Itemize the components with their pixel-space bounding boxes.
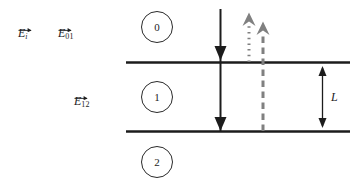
- thickness-dimension-head-bottom: [319, 118, 327, 128]
- field-12-subscript: 12: [81, 100, 89, 109]
- diagram-canvas: [0, 0, 354, 186]
- incident-field-symbol: E: [18, 27, 25, 39]
- reflected-arrow-12-head: [257, 22, 270, 36]
- region-number-2: 2: [142, 157, 172, 168]
- physics-layer-diagram: E i E 01 E 12 0 1 2 L: [0, 0, 354, 186]
- field-01-label: E 01: [58, 27, 74, 41]
- region-marker-0: 0: [141, 11, 173, 43]
- incident-field-label: E i: [18, 27, 28, 41]
- thickness-dimension-head-top: [319, 66, 327, 76]
- field-12-symbol: E: [74, 95, 81, 107]
- incident-arrow-head-lower: [215, 117, 227, 131]
- reflected-arrow-01-head: [243, 13, 256, 27]
- incident-field-subscript: i: [25, 32, 27, 41]
- field-01-subscript: 01: [65, 32, 73, 41]
- thickness-dimension-label: L: [331, 91, 338, 103]
- region-number-1: 1: [142, 92, 172, 103]
- region-marker-2: 2: [141, 146, 173, 178]
- incident-arrow-head-upper: [215, 46, 227, 61]
- region-number-0: 0: [142, 22, 172, 33]
- region-marker-1: 1: [141, 81, 173, 113]
- field-12-label: E 12: [74, 95, 90, 109]
- field-01-symbol: E: [58, 27, 65, 39]
